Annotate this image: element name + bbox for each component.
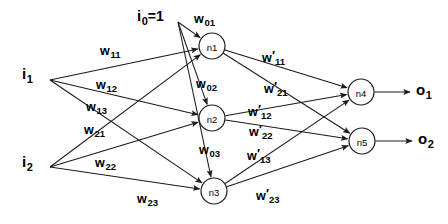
weight-label-wp11: w′11 bbox=[262, 50, 285, 66]
weight-base: w bbox=[137, 192, 147, 206]
weight-subscript: 02 bbox=[206, 82, 217, 93]
weight-label-wp23: w′23 bbox=[256, 188, 280, 204]
weight-label-w02: w02 bbox=[196, 76, 217, 92]
edge-i2-n2 bbox=[50, 122, 198, 167]
weight-label-w21: w21 bbox=[84, 122, 105, 138]
neural-network-diagram: n1n2n3n4n5i0=1i1i2o1o2w01w02w03w11w12w13… bbox=[0, 0, 448, 224]
weight-subscript: 23 bbox=[269, 194, 280, 205]
node-label-n4: n4 bbox=[356, 87, 367, 98]
output-base: o bbox=[416, 81, 425, 98]
edge-i2-n3 bbox=[50, 167, 200, 189]
weight-subscript: 13 bbox=[260, 154, 271, 165]
weight-label-w22: w22 bbox=[95, 155, 116, 171]
weight-label-w01: w01 bbox=[194, 11, 215, 27]
edge-i1-n1 bbox=[50, 49, 198, 80]
input-label-i1: i1 bbox=[22, 66, 33, 85]
weight-label-wp21: w′21 bbox=[264, 81, 288, 97]
node-label-n5: n5 bbox=[357, 136, 368, 147]
weight-subscript: 12 bbox=[261, 110, 272, 121]
weight-subscript: 23 bbox=[147, 197, 158, 208]
node-layer bbox=[199, 33, 375, 204]
output-subscript: 2 bbox=[427, 138, 434, 150]
weight-base: w bbox=[248, 105, 258, 119]
weight-base: w bbox=[194, 12, 204, 26]
output-label-o2: o2 bbox=[418, 131, 434, 150]
output-base: o bbox=[418, 130, 427, 147]
weight-label-w12: w12 bbox=[96, 77, 117, 93]
node-label-n1: n1 bbox=[207, 41, 218, 52]
edge-i2-n1 bbox=[50, 55, 200, 167]
weight-subscript: 22 bbox=[262, 130, 273, 141]
weight-subscript: 01 bbox=[204, 17, 215, 28]
weight-base: w bbox=[96, 78, 106, 92]
weight-subscript: 03 bbox=[209, 148, 220, 159]
weight-base: w bbox=[249, 125, 259, 139]
input-suffix: =1 bbox=[148, 8, 164, 24]
edge-i1-n3 bbox=[50, 80, 202, 183]
weight-subscript: 21 bbox=[277, 87, 288, 98]
edge-n3-n5 bbox=[227, 146, 348, 187]
input-label-i2: i2 bbox=[22, 154, 33, 173]
weight-base: w bbox=[196, 77, 206, 91]
input-subscript: 2 bbox=[26, 161, 33, 173]
weight-label-wp12: w′12 bbox=[248, 104, 272, 120]
input-subscript: 1 bbox=[26, 73, 33, 85]
weight-label-w13: w13 bbox=[86, 99, 107, 115]
weight-subscript: 13 bbox=[96, 105, 107, 116]
network-graph-svg bbox=[0, 0, 448, 224]
weight-subscript: 11 bbox=[110, 49, 121, 60]
weight-base: w bbox=[264, 82, 274, 96]
weight-base: w bbox=[100, 44, 110, 58]
edge-n2-n5 bbox=[225, 120, 347, 139]
node-label-n2: n2 bbox=[207, 113, 218, 124]
input-subscript: 0 bbox=[141, 15, 148, 27]
weight-label-w11: w11 bbox=[100, 43, 120, 59]
weight-base: w bbox=[256, 189, 266, 203]
weight-label-wp22: w′22 bbox=[249, 124, 273, 140]
input-label-i0: i0=1 bbox=[137, 8, 164, 27]
weight-subscript: 21 bbox=[94, 128, 105, 139]
output-subscript: 1 bbox=[425, 89, 432, 101]
weight-label-w23: w23 bbox=[137, 191, 158, 207]
weight-base: w bbox=[199, 143, 209, 157]
weight-subscript: 22 bbox=[105, 161, 116, 172]
weight-subscript: 12 bbox=[106, 83, 117, 94]
weight-base: w bbox=[84, 123, 94, 137]
weight-base: w bbox=[95, 156, 105, 170]
weight-label-w03: w03 bbox=[199, 142, 220, 158]
weight-label-wp13: w′13 bbox=[247, 148, 271, 164]
weight-subscript: 11 bbox=[275, 56, 286, 67]
edge-i1-n2 bbox=[50, 80, 198, 115]
weight-base: w bbox=[86, 100, 96, 114]
node-label-n3: n3 bbox=[209, 186, 220, 197]
weight-base: w bbox=[247, 149, 257, 163]
weight-base: w bbox=[262, 51, 272, 65]
output-label-o1: o1 bbox=[416, 82, 432, 101]
